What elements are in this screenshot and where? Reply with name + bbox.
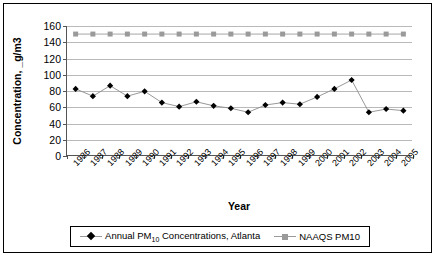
data-point — [297, 32, 302, 37]
data-point — [366, 109, 372, 115]
data-point — [211, 32, 216, 37]
chart-legend: Annual PM10 Concentrations, Atlanta NAAQ… — [70, 226, 370, 247]
data-point — [383, 106, 389, 112]
series-annual-pm10 — [73, 77, 407, 115]
data-point — [90, 32, 95, 37]
data-point — [176, 104, 182, 110]
data-point — [262, 102, 268, 108]
y-axis-title-text: Concentration, _g/m3 — [11, 37, 23, 144]
data-point — [159, 100, 165, 106]
y-axis-tick-label: 160 — [43, 20, 61, 32]
y-axis-tick-label: 100 — [43, 69, 61, 81]
data-point — [246, 32, 251, 37]
data-point — [400, 108, 406, 114]
data-point — [263, 32, 268, 37]
legend-entry-naaqs-pm10: NAAQS PM10 — [274, 231, 360, 242]
plot-area: 020406080100120140160 198619871988198919… — [66, 26, 412, 156]
data-series-layer — [67, 26, 412, 155]
y-axis-tick-label: 140 — [43, 36, 61, 48]
series-naaqs-pm10 — [73, 32, 406, 37]
data-point — [314, 94, 320, 100]
data-point — [142, 32, 147, 37]
y-axis-tick-label: 120 — [43, 53, 61, 65]
data-point — [228, 105, 234, 111]
data-point — [125, 32, 130, 37]
data-point — [159, 32, 164, 37]
data-point — [384, 32, 389, 37]
x-axis-tick — [67, 155, 68, 159]
chart-plot-wrapper: Concentration, _g/m3 0204060801001201401… — [4, 4, 433, 254]
data-point — [280, 100, 286, 106]
data-point — [73, 86, 79, 92]
data-point — [228, 32, 233, 37]
legend-entry-annual-pm10: Annual PM10 Concentrations, Atlanta — [80, 230, 260, 243]
x-axis-title: Year — [66, 200, 412, 212]
data-point — [107, 83, 113, 89]
x-axis-title-text: Year — [228, 200, 250, 212]
data-point — [73, 32, 78, 37]
data-point — [108, 32, 113, 37]
y-axis-tick-label: 60 — [49, 101, 61, 113]
data-point — [124, 93, 130, 99]
y-axis-tick-label: 0 — [55, 150, 61, 162]
y-axis-tick-label: 80 — [49, 85, 61, 97]
data-point — [177, 32, 182, 37]
data-point — [332, 32, 337, 37]
data-point — [193, 99, 199, 105]
data-point — [366, 32, 371, 37]
data-point — [211, 103, 217, 109]
data-point — [297, 101, 303, 107]
data-point — [315, 32, 320, 37]
data-point — [90, 93, 96, 99]
chart-frame: Concentration, _g/m3 0204060801001201401… — [3, 3, 432, 253]
legend-marker-square-icon — [274, 232, 296, 241]
data-point — [349, 32, 354, 37]
y-axis-tick-label: 20 — [49, 134, 61, 146]
y-axis-tick-label: 40 — [49, 118, 61, 130]
legend-marker-diamond-icon — [80, 232, 102, 241]
y-axis-title: Concentration, _g/m3 — [10, 26, 24, 156]
data-point — [331, 86, 337, 92]
legend-label-annual-pm10: Annual PM10 Concentrations, Atlanta — [105, 230, 260, 243]
legend-label-naaqs-pm10: NAAQS PM10 — [299, 231, 360, 242]
data-point — [142, 88, 148, 94]
data-point — [401, 32, 406, 37]
legend-label-suffix: Concentrations, Atlanta — [159, 230, 260, 241]
data-point — [349, 77, 355, 83]
legend-label-prefix: Annual PM — [105, 230, 151, 241]
data-point — [245, 109, 251, 115]
data-point — [280, 32, 285, 37]
data-point — [194, 32, 199, 37]
